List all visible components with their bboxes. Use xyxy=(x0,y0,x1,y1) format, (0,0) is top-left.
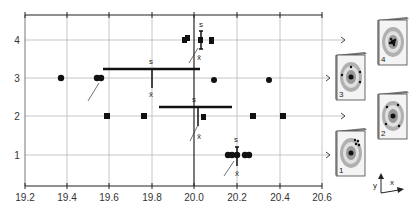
data-point-square xyxy=(250,113,256,119)
y-tick-label: 1 xyxy=(14,150,20,161)
std-label: s xyxy=(192,95,196,104)
target-number: 2 xyxy=(381,129,386,138)
target-board-2: 2 xyxy=(377,91,409,140)
x-tick-labels: 19.2 19.4 19.6 19.8 20.0 20.2 20.4 20.6 xyxy=(15,192,332,203)
y-tick-label: 2 xyxy=(14,111,20,122)
target-number: 1 xyxy=(339,166,344,175)
mean-label: x̄ xyxy=(235,169,239,178)
y-direction-label: y xyxy=(373,181,377,190)
pointer-arrow xyxy=(88,83,99,101)
data-point-circle xyxy=(211,77,217,83)
series-target-1: s x̄ xyxy=(224,135,252,178)
series-target-2: s x̄ xyxy=(104,95,286,141)
x-tick-label: 19.4 xyxy=(57,192,77,203)
std-label: s xyxy=(149,57,153,66)
std-label: s xyxy=(234,135,238,144)
target-number: 4 xyxy=(381,55,386,64)
horizontal-gridlines xyxy=(25,40,345,155)
x-tick-label: 19.6 xyxy=(99,192,119,203)
series-target-3: s x̄ xyxy=(58,57,272,101)
x-tick-label: 20.4 xyxy=(270,192,290,203)
series-target-4: s x̄ xyxy=(182,20,214,63)
y-tick-label: 3 xyxy=(14,73,20,84)
x-tick-label: 20.2 xyxy=(227,192,247,203)
x-direction-label: x xyxy=(390,178,394,187)
target-board-1: 1 xyxy=(335,128,367,177)
target-board-4: 4 xyxy=(377,17,409,66)
data-point-circle xyxy=(98,75,104,81)
y-tick-label: 4 xyxy=(14,35,20,46)
target-number: 3 xyxy=(339,90,344,99)
x-tick-label: 19.2 xyxy=(15,192,35,203)
std-label: s xyxy=(199,20,203,29)
target-board-3: 3 xyxy=(335,52,367,101)
data-point-square xyxy=(141,113,147,119)
data-point-circle xyxy=(58,75,64,81)
pointer-arrow xyxy=(224,161,234,176)
x-tick-label: 20.6 xyxy=(312,192,332,203)
data-point-square xyxy=(185,35,190,41)
x-tick-label: 20.0 xyxy=(184,192,204,203)
data-point-square xyxy=(280,113,286,119)
x-tick-label: 19.8 xyxy=(142,192,162,203)
mean-label: x̄ xyxy=(149,90,153,99)
y-tick-labels: 1 2 3 4 xyxy=(14,35,20,161)
data-point-square xyxy=(201,114,206,120)
xy-axes-indicator: y x xyxy=(373,173,404,193)
data-point-circle xyxy=(266,77,272,83)
accuracy-precision-diagram: 19.2 19.4 19.6 19.8 20.0 20.2 20.4 20.6 … xyxy=(0,0,420,212)
mean-label: x̄ xyxy=(197,132,201,141)
mean-label: x̄ xyxy=(197,53,201,62)
data-point-square xyxy=(209,37,214,44)
data-point-circle xyxy=(246,152,252,158)
x-ticks xyxy=(25,12,322,189)
data-point-square xyxy=(104,113,110,119)
